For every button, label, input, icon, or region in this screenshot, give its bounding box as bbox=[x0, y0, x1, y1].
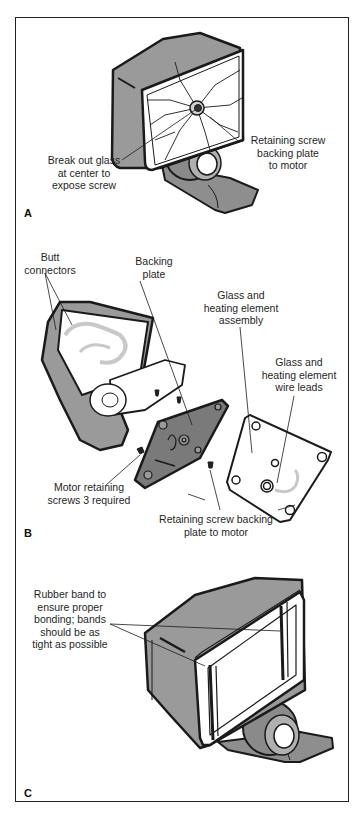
callout-break-out-glass: Break out glass at center to expose scre… bbox=[34, 154, 134, 192]
panel-label-a: A bbox=[24, 207, 32, 219]
mirror-illustration bbox=[0, 0, 363, 815]
panel-label-c: C bbox=[24, 787, 32, 799]
callout-rubber-band: Rubber band to ensure proper bonding; ba… bbox=[20, 588, 120, 651]
callout-retaining-screw-b: Retaining screw backing plate to motor bbox=[146, 513, 286, 538]
callout-glass-heating-wire-leads: Glass and heating element wire leads bbox=[244, 356, 354, 394]
callout-butt-connectors: Butt connectors bbox=[18, 251, 82, 276]
callout-glass-heating-assembly: Glass and heating element assembly bbox=[186, 289, 296, 327]
callout-backing-plate: Backing plate bbox=[124, 255, 184, 280]
panel-label-b: B bbox=[24, 527, 32, 539]
callout-retaining-screw-a: Retaining screw backing plate to motor bbox=[238, 134, 338, 172]
callout-motor-retaining-screws: Motor retaining screws 3 required bbox=[36, 481, 142, 506]
panel-c-rubber-bands bbox=[110, 578, 333, 762]
